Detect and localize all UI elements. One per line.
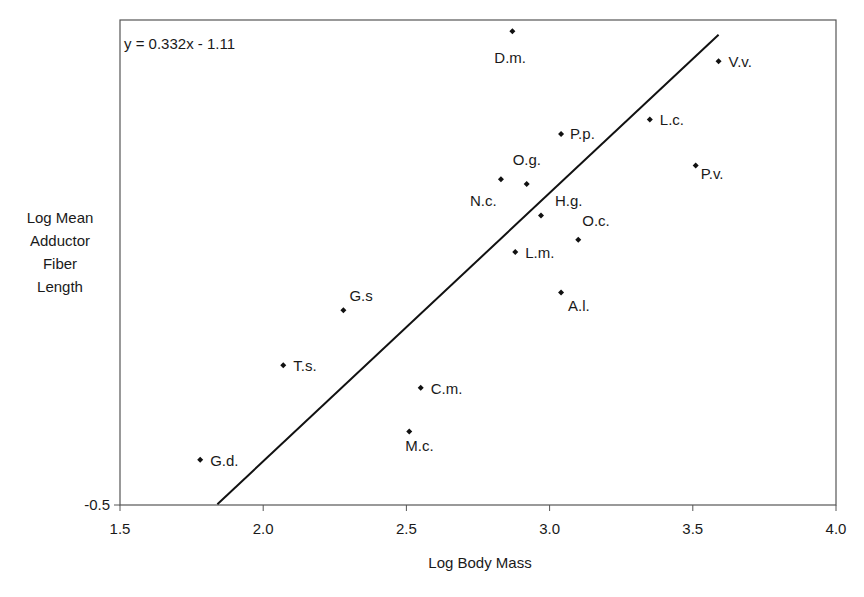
point-label: P.p. [570, 125, 595, 142]
point-label: P.v. [701, 165, 724, 182]
plot-border [120, 20, 836, 505]
data-point: O.g. [513, 151, 541, 187]
data-point: O.c. [575, 212, 610, 243]
y-axis: -0.5 [84, 496, 120, 513]
point-label: D.m. [494, 49, 526, 66]
plot-frame [120, 20, 836, 505]
trendline-path [217, 35, 718, 505]
y-axis-title-line: Log Mean [0, 206, 120, 229]
diamond-marker-icon [509, 28, 515, 34]
diamond-marker-icon [406, 428, 412, 434]
diamond-marker-icon [418, 385, 424, 391]
data-point: P.v. [693, 163, 724, 182]
diamond-marker-icon [693, 163, 699, 169]
diamond-marker-icon [340, 307, 346, 313]
regression-line [217, 35, 718, 505]
diamond-marker-icon [512, 249, 518, 255]
point-label: G.d. [210, 452, 238, 469]
x-tick-label: 3.0 [539, 520, 560, 537]
data-point: G.s [340, 287, 372, 313]
diamond-marker-icon [280, 362, 286, 368]
data-point: T.s. [280, 357, 316, 374]
x-tick-label: 2.5 [396, 520, 417, 537]
data-point: P.p. [558, 125, 595, 142]
diamond-marker-icon [498, 176, 504, 182]
point-label: A.l. [568, 297, 590, 314]
x-axis: 1.52.02.53.03.54.0 [110, 505, 847, 537]
point-label: O.c. [582, 212, 610, 229]
point-label: O.g. [513, 151, 541, 168]
point-label: M.c. [405, 437, 433, 454]
data-point: M.c. [405, 428, 433, 454]
data-point: C.m. [418, 380, 463, 397]
trendline-equation: y = 0.332x - 1.11 [124, 35, 235, 52]
data-point: G.d. [197, 452, 238, 469]
point-label: G.s [349, 287, 372, 304]
y-axis-title: Log Mean Adductor Fiber Length [0, 206, 120, 298]
y-tick-label: -0.5 [84, 496, 110, 513]
diamond-marker-icon [647, 116, 653, 122]
point-label: L.m. [525, 244, 554, 261]
x-tick-label: 3.5 [682, 520, 703, 537]
diamond-marker-icon [558, 289, 564, 295]
point-label: H.g. [555, 192, 583, 209]
point-label: L.c. [660, 111, 684, 128]
point-label: V.v. [729, 53, 752, 70]
y-axis-title-line: Adductor [0, 229, 120, 252]
diamond-marker-icon [575, 237, 581, 243]
data-point: L.c. [647, 111, 684, 128]
y-axis-title-line: Fiber [0, 252, 120, 275]
diamond-marker-icon [558, 131, 564, 137]
diamond-marker-icon [197, 457, 203, 463]
y-axis-title-line: Length [0, 275, 120, 298]
x-tick-label: 2.0 [253, 520, 274, 537]
scatter-chart: 1.52.02.53.03.54.0 -0.5 D.m.V.v.L.c.P.p.… [0, 0, 864, 597]
data-points: D.m.V.v.L.c.P.p.P.v.N.c.O.g.H.g.O.c.L.m.… [197, 28, 752, 468]
point-label: C.m. [431, 380, 463, 397]
point-label: T.s. [293, 357, 316, 374]
data-point: H.g. [538, 192, 583, 219]
diamond-marker-icon [538, 213, 544, 219]
data-point: D.m. [494, 28, 526, 66]
x-tick-label: 1.5 [110, 520, 131, 537]
x-tick-label: 4.0 [826, 520, 847, 537]
diamond-marker-icon [716, 58, 722, 64]
data-point: L.m. [512, 244, 554, 261]
data-point: V.v. [716, 53, 752, 70]
data-point: N.c. [470, 176, 504, 209]
data-point: A.l. [558, 289, 590, 314]
x-axis-title: Log Body Mass [380, 554, 580, 571]
point-label: N.c. [470, 192, 497, 209]
diamond-marker-icon [524, 181, 530, 187]
